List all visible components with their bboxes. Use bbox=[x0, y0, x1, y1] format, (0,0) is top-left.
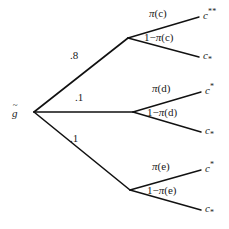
pi-d-argument: (d) bbox=[158, 82, 171, 94]
pi-c-argument: (c) bbox=[161, 31, 173, 43]
terminal-subscript: * bbox=[210, 208, 214, 217]
edge-label-one-minus-pi-c: 1−π(c) bbox=[144, 32, 173, 43]
edge-label-one-minus-pi-d: 1−π(d) bbox=[147, 107, 177, 118]
terminal-label-e-success: c* bbox=[205, 163, 214, 174]
pi-e-argument: (e) bbox=[158, 160, 170, 172]
pi-e-argument: (e) bbox=[164, 184, 176, 196]
tree-edges-canvas bbox=[0, 0, 229, 229]
pi-c-argument: (c) bbox=[155, 7, 167, 19]
terminal-label-d-failure: c* bbox=[205, 125, 214, 136]
terminal-label-c-success: c** bbox=[203, 10, 217, 21]
terminal-subscript: * bbox=[210, 130, 214, 139]
root-node-label: ~ g bbox=[12, 104, 18, 119]
edge-label-pi-c: π(c) bbox=[149, 8, 167, 19]
terminal-label-e-failure: c* bbox=[205, 203, 214, 214]
terminal-subscript: * bbox=[208, 55, 212, 64]
probability-label-branch-d: .1 bbox=[75, 92, 83, 103]
probability-label-branch-e: .1 bbox=[70, 133, 78, 144]
terminal-superscript: * bbox=[210, 160, 214, 169]
terminal-superscript: ** bbox=[208, 7, 217, 16]
edge-label-pi-e: π(e) bbox=[152, 161, 170, 172]
edge-root-to-e bbox=[34, 112, 130, 190]
probability-label-branch-c: .8 bbox=[70, 50, 78, 61]
root-label-base: g bbox=[12, 108, 18, 119]
terminal-label-d-success: c* bbox=[205, 85, 214, 96]
pi-d-argument: (d) bbox=[164, 106, 177, 118]
terminal-label-c-failure: c* bbox=[203, 50, 212, 61]
terminal-superscript: * bbox=[210, 82, 214, 91]
edge-label-one-minus-pi-e: 1−π(e) bbox=[147, 185, 176, 196]
edge-label-pi-d: π(d) bbox=[152, 83, 170, 94]
decision-tree-figure: ~ g .8 .1 .1 π(c) 1−π(c) π(d) 1−π(d) π(e… bbox=[0, 0, 229, 229]
